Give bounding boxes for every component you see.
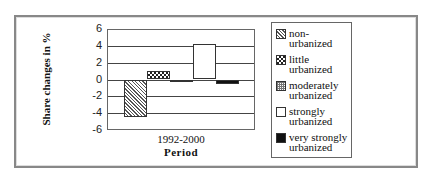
bar-moderately-urbanized bbox=[170, 80, 193, 82]
legend-label: urbanized bbox=[289, 63, 332, 75]
bar-very-strongly-urbanized bbox=[216, 80, 239, 84]
y-tick-label: -6 bbox=[78, 124, 102, 135]
checkerboard-swatch-icon bbox=[276, 55, 286, 65]
grid-swatch-icon bbox=[276, 81, 286, 91]
y-tick-label: 4 bbox=[78, 40, 102, 51]
legend: non-urbanized littleurbanized moderately… bbox=[271, 22, 352, 158]
gridline bbox=[108, 46, 254, 47]
dotted-swatch-icon bbox=[276, 107, 286, 117]
legend-label: urbanized bbox=[289, 141, 332, 153]
y-tick-label: 0 bbox=[78, 74, 102, 85]
bar-little-urbanized bbox=[147, 71, 170, 79]
y-tick-label: 2 bbox=[78, 57, 102, 68]
solid-swatch-icon bbox=[276, 133, 286, 143]
y-tick-label: -2 bbox=[78, 90, 102, 101]
x-axis-label: Period bbox=[107, 146, 255, 158]
diagonal-hatch-swatch-icon bbox=[276, 29, 286, 39]
plot-area bbox=[107, 29, 255, 130]
legend-label: urbanized bbox=[289, 115, 332, 127]
legend-label: urbanized bbox=[289, 37, 332, 49]
y-axis-label: Share changes in % bbox=[40, 32, 52, 125]
x-category-label: 1992-2000 bbox=[107, 133, 255, 145]
bar-strongly-urbanized bbox=[193, 44, 216, 79]
legend-label: urbanized bbox=[289, 89, 332, 101]
bar-non-urbanized bbox=[124, 80, 147, 118]
y-tick-label: -4 bbox=[78, 107, 102, 118]
gridline bbox=[108, 63, 254, 64]
y-tick-label: 6 bbox=[78, 23, 102, 34]
